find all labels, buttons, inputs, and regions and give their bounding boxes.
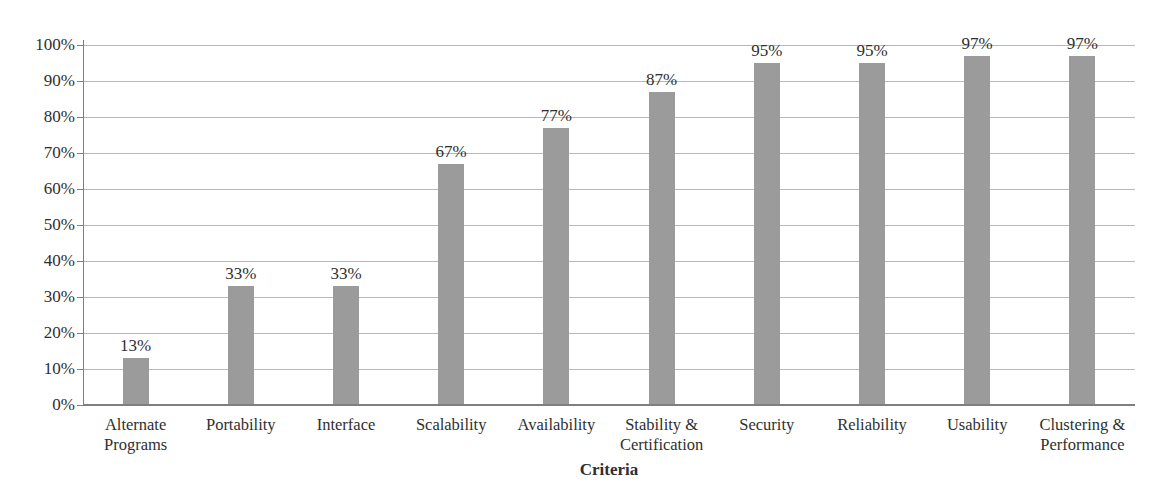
category-label: Clustering & Performance bbox=[1026, 415, 1138, 455]
y-tick-label: 100% bbox=[19, 36, 75, 54]
y-tick-label: 20% bbox=[19, 324, 75, 342]
y-tick-label: 40% bbox=[19, 252, 75, 270]
y-tick-mark bbox=[77, 297, 83, 298]
y-tick-mark bbox=[77, 369, 83, 370]
bar bbox=[649, 92, 675, 405]
y-tick-label: 80% bbox=[19, 108, 75, 126]
y-axis-line bbox=[83, 40, 84, 406]
category-label: Alternate Programs bbox=[80, 415, 192, 455]
bar-value-label: 33% bbox=[206, 265, 276, 283]
bar-value-label: 67% bbox=[416, 143, 486, 161]
y-tick-mark bbox=[77, 45, 83, 46]
y-tick-label: 30% bbox=[19, 288, 75, 306]
bar-value-label: 95% bbox=[837, 42, 907, 60]
bar bbox=[1069, 56, 1095, 405]
y-tick-mark bbox=[77, 189, 83, 190]
bar bbox=[859, 63, 885, 405]
category-label: Usability bbox=[921, 415, 1033, 435]
category-label: Interface bbox=[290, 415, 402, 435]
y-tick-mark bbox=[77, 117, 83, 118]
bar-value-label: 77% bbox=[521, 107, 591, 125]
y-tick-label: 70% bbox=[19, 144, 75, 162]
y-tick-mark bbox=[77, 81, 83, 82]
bar bbox=[123, 358, 149, 405]
category-label: Portability bbox=[185, 415, 297, 435]
x-axis-baseline bbox=[83, 404, 1135, 406]
y-tick-label: 60% bbox=[19, 180, 75, 198]
y-tick-mark bbox=[77, 405, 83, 406]
bar-value-label: 97% bbox=[1047, 35, 1117, 53]
bar-value-label: 33% bbox=[311, 265, 381, 283]
plot-area: 13%33%33%67%77%87%95%95%97%97% bbox=[83, 45, 1135, 405]
y-tick-mark bbox=[77, 333, 83, 334]
bar bbox=[754, 63, 780, 405]
category-label: Availability bbox=[500, 415, 612, 435]
bar bbox=[543, 128, 569, 405]
y-tick-label: 10% bbox=[19, 360, 75, 378]
bar bbox=[964, 56, 990, 405]
category-label: Stability & Certification bbox=[606, 415, 718, 455]
y-tick-mark bbox=[77, 225, 83, 226]
category-label: Scalability bbox=[395, 415, 507, 435]
y-tick-mark bbox=[77, 261, 83, 262]
bar-value-label: 13% bbox=[101, 337, 171, 355]
bar bbox=[228, 286, 254, 405]
bar-value-label: 97% bbox=[942, 35, 1012, 53]
bar bbox=[438, 164, 464, 405]
bar bbox=[333, 286, 359, 405]
bar-chart-figure: 13%33%33%67%77%87%95%95%97%97% 0%10%20%3… bbox=[0, 0, 1157, 504]
category-label: Security bbox=[711, 415, 823, 435]
x-axis-title: Criteria bbox=[83, 460, 1135, 480]
category-label: Reliability bbox=[816, 415, 928, 435]
bar-value-label: 95% bbox=[732, 42, 802, 60]
bar-value-label: 87% bbox=[627, 71, 697, 89]
y-tick-label: 0% bbox=[19, 396, 75, 414]
y-tick-label: 50% bbox=[19, 216, 75, 234]
y-tick-mark bbox=[77, 153, 83, 154]
y-tick-label: 90% bbox=[19, 72, 75, 90]
